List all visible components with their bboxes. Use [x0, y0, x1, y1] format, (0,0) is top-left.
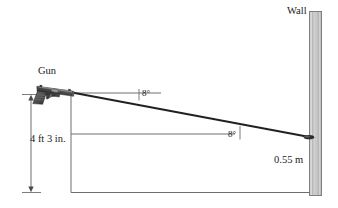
reference-box [71, 94, 310, 193]
gun-label: Gun [38, 66, 56, 77]
trajectory-line [72, 93, 312, 138]
gun-height-label: 4 ft 3 in. [30, 134, 66, 145]
impact-height-label: 0.55 m [274, 155, 303, 166]
wall-shape [310, 12, 322, 196]
wall-label: Wall [287, 6, 307, 17]
impact-point-marker [304, 135, 314, 139]
lower-angle-label: 8° [228, 130, 236, 139]
diagram-canvas [0, 0, 338, 208]
upper-angle-label: 8° [142, 89, 150, 98]
trajectory-diagram: Wall Gun 8° 8° 4 ft 3 in. 0.55 m [0, 0, 338, 208]
gun-icon [33, 83, 75, 111]
